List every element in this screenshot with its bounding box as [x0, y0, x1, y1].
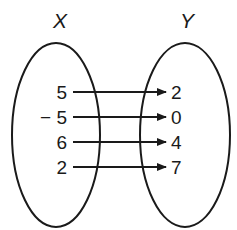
domain-value: 6 — [56, 132, 67, 153]
domain-value: − 5 — [40, 107, 67, 128]
range-label: Y — [180, 9, 196, 32]
range-value: 4 — [171, 132, 182, 153]
range-value: 2 — [171, 82, 182, 103]
domain-value: 5 — [56, 82, 67, 103]
domain-value: 2 — [56, 157, 67, 178]
domain-label: X — [52, 9, 68, 32]
range-value: 7 — [171, 157, 182, 178]
range-oval — [140, 43, 230, 227]
mapping-diagram: X Y 5 − 5 6 2 2 0 4 7 — [0, 0, 237, 230]
range-value: 0 — [171, 107, 182, 128]
